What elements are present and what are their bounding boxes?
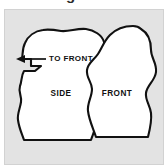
front-shape-label: FRONT — [102, 89, 132, 98]
to-front-arrow-head — [16, 55, 25, 63]
figure-heading-clipped: Making a Pattern — [0, 0, 168, 5]
pattern-diagram-svg: Side and front pattern templates TO FRON… — [5, 10, 163, 164]
side-shape-label: SIDE — [51, 89, 72, 98]
illustration-panel: Side and front pattern templates TO FRON… — [4, 9, 164, 165]
figure-root: Making a Pattern Side and front pattern … — [0, 0, 168, 165]
figure-heading-text: Making a Pattern — [0, 0, 168, 3]
to-front-callout-label: TO FRONT — [49, 54, 93, 63]
